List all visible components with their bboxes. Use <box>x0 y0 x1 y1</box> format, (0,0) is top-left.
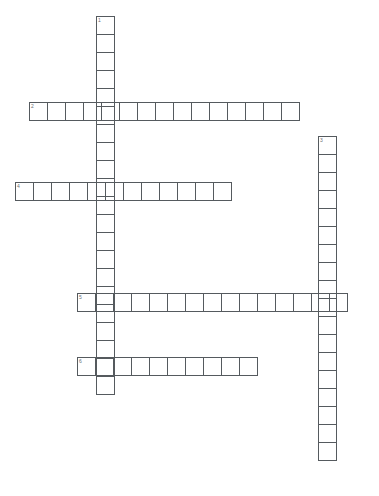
grid-cell[interactable] <box>318 154 337 173</box>
grid-cell[interactable]: 3 <box>318 136 337 155</box>
cell-letter <box>168 294 185 311</box>
cell-letter <box>34 183 51 200</box>
grid-cell[interactable] <box>96 34 115 53</box>
grid-cell[interactable] <box>318 352 337 371</box>
grid-cell[interactable] <box>195 182 214 201</box>
cell-letter <box>97 215 114 232</box>
grid-cell[interactable] <box>96 376 115 395</box>
cell-letter <box>97 341 114 358</box>
grid-cell[interactable] <box>318 334 337 353</box>
grid-cell[interactable] <box>47 102 66 121</box>
cell-letter <box>319 389 336 406</box>
grid-cell[interactable] <box>185 357 204 376</box>
grid-cell[interactable] <box>318 316 337 335</box>
grid-cell[interactable] <box>96 322 115 341</box>
grid-cell[interactable] <box>96 142 115 161</box>
grid-cell[interactable] <box>69 182 88 201</box>
grid-cell[interactable] <box>33 182 52 201</box>
grid-cell[interactable]: 5 <box>77 293 96 312</box>
grid-cell[interactable] <box>318 208 337 227</box>
grid-cell[interactable] <box>239 293 258 312</box>
grid-cell[interactable]: 6 <box>77 357 96 376</box>
grid-cell[interactable] <box>87 182 106 201</box>
grid-cell[interactable] <box>96 268 115 287</box>
grid-cell[interactable]: 4 <box>15 182 34 201</box>
grid-cell[interactable] <box>318 244 337 263</box>
grid-cell[interactable] <box>177 182 196 201</box>
grid-cell[interactable] <box>96 124 115 143</box>
grid-cell[interactable] <box>257 293 276 312</box>
grid-cell[interactable] <box>318 424 337 443</box>
grid-cell[interactable] <box>318 388 337 407</box>
grid-cell[interactable]: 1 <box>96 16 115 35</box>
cell-letter <box>102 103 119 120</box>
grid-cell[interactable] <box>318 442 337 461</box>
grid-cell[interactable] <box>65 102 84 121</box>
grid-cell[interactable] <box>119 102 138 121</box>
cell-letter <box>78 358 95 375</box>
cell-letter <box>204 294 221 311</box>
grid-cell[interactable] <box>96 232 115 251</box>
cell-letter <box>97 269 114 286</box>
grid-cell[interactable] <box>239 357 258 376</box>
grid-cell[interactable] <box>113 293 132 312</box>
grid-cell[interactable] <box>95 293 114 312</box>
grid-cell[interactable] <box>275 293 294 312</box>
grid-cell[interactable] <box>281 102 300 121</box>
grid-cell[interactable] <box>318 172 337 191</box>
cell-letter <box>319 335 336 352</box>
grid-cell[interactable] <box>227 102 246 121</box>
grid-cell[interactable] <box>213 182 232 201</box>
cell-letter <box>210 103 227 120</box>
grid-cell[interactable] <box>167 293 186 312</box>
grid-cell[interactable] <box>149 357 168 376</box>
grid-cell[interactable] <box>191 102 210 121</box>
cell-letter <box>30 103 47 120</box>
grid-cell[interactable] <box>149 293 168 312</box>
grid-cell[interactable] <box>101 102 120 121</box>
grid-cell[interactable] <box>209 102 228 121</box>
cell-letter <box>70 183 87 200</box>
grid-cell[interactable] <box>96 52 115 71</box>
grid-cell[interactable] <box>131 293 150 312</box>
grid-cell[interactable] <box>318 370 337 389</box>
grid-cell[interactable] <box>245 102 264 121</box>
grid-cell[interactable]: 2 <box>29 102 48 121</box>
grid-cell[interactable] <box>221 357 240 376</box>
grid-cell[interactable] <box>318 190 337 209</box>
grid-cell[interactable] <box>318 226 337 245</box>
grid-cell[interactable] <box>96 250 115 269</box>
grid-cell[interactable] <box>173 102 192 121</box>
grid-cell[interactable] <box>329 293 348 312</box>
cell-letter <box>97 71 114 88</box>
grid-cell[interactable] <box>137 102 156 121</box>
grid-cell[interactable] <box>51 182 70 201</box>
cell-letter <box>66 103 83 120</box>
grid-cell[interactable] <box>96 70 115 89</box>
grid-cell[interactable] <box>221 293 240 312</box>
grid-cell[interactable] <box>167 357 186 376</box>
grid-cell[interactable] <box>318 262 337 281</box>
grid-cell[interactable] <box>105 182 124 201</box>
grid-cell[interactable] <box>141 182 160 201</box>
cell-letter <box>142 183 159 200</box>
cell-letter <box>97 161 114 178</box>
grid-cell[interactable] <box>203 357 222 376</box>
cell-letter <box>319 173 336 190</box>
grid-cell[interactable] <box>96 160 115 179</box>
grid-cell[interactable] <box>159 182 178 201</box>
grid-cell[interactable] <box>95 357 114 376</box>
grid-cell[interactable] <box>263 102 282 121</box>
grid-cell[interactable] <box>96 214 115 233</box>
grid-cell[interactable] <box>293 293 312 312</box>
grid-cell[interactable] <box>203 293 222 312</box>
grid-cell[interactable] <box>318 406 337 425</box>
grid-cell[interactable] <box>311 293 330 312</box>
grid-cell[interactable] <box>123 182 142 201</box>
cell-letter <box>97 143 114 160</box>
grid-cell[interactable] <box>185 293 204 312</box>
grid-cell[interactable] <box>113 357 132 376</box>
grid-cell[interactable] <box>155 102 174 121</box>
grid-cell[interactable] <box>131 357 150 376</box>
grid-cell[interactable] <box>83 102 102 121</box>
